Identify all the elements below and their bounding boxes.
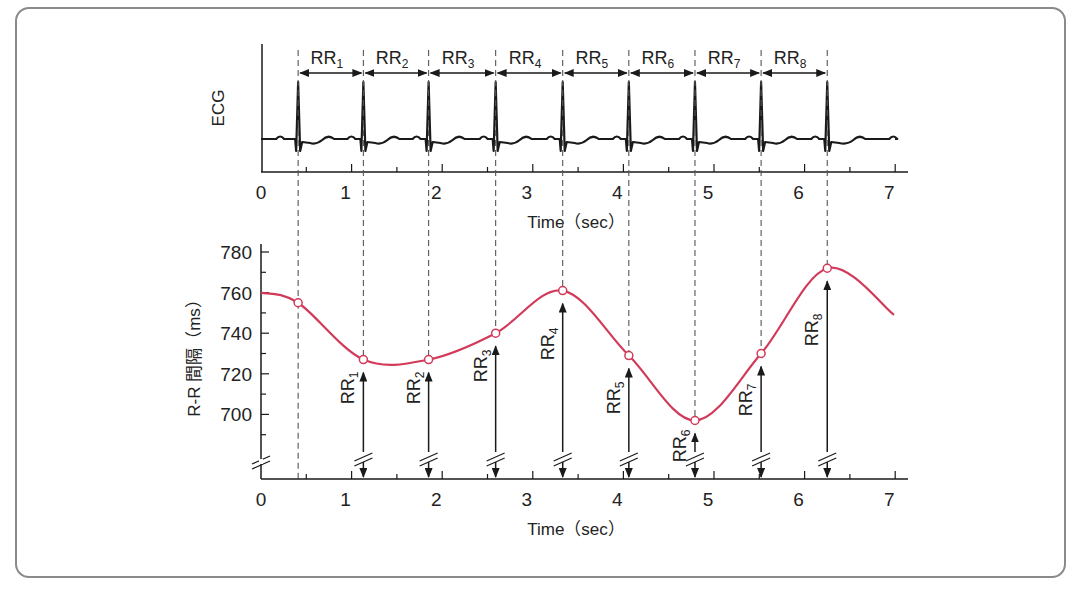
rr-value-label: RR3 [471,349,494,382]
rr-panel: R-R 間隔（ms） 780760740720700 01234567 Time… [185,242,908,539]
y-tick-label: 780 [220,242,252,263]
rr-interval-label: RR4 [509,48,542,71]
y-tick-label: 700 [220,404,252,425]
x-tick-label: 5 [703,489,714,510]
rr-data-point [359,356,367,364]
ecg-y-label: ECG [209,90,228,127]
x-tick-label: 0 [256,489,267,510]
rr-interval-label: RR6 [642,48,675,71]
rr-y-label: R-R 間隔（ms） [185,291,204,417]
x-tick-label: 1 [340,182,351,203]
x-tick-label: 3 [522,489,533,510]
rr-x-ticks: 01234567 [256,471,895,510]
y-tick-label: 720 [220,364,252,385]
rr-value-label: RR5 [604,381,627,414]
x-tick-label: 1 [340,489,351,510]
rr-interval-label: RR8 [774,48,807,71]
rr-x-label: Time（sec） [527,520,625,539]
rr-value-label: RR4 [538,327,561,360]
x-tick-label: 6 [793,182,804,203]
rr-data-point [294,299,302,307]
rr-data-point [757,350,765,358]
rr-interval-label: RR1 [310,48,343,71]
x-tick-label: 0 [256,182,267,203]
rr-value-label: RR1 [338,371,361,404]
ecg-panel: ECG 01234567 Time（sec） RR1RR2RR3RR4RR5RR… [209,44,908,232]
x-tick-label: 2 [431,489,442,510]
ecg-x-label: Time（sec） [527,213,625,232]
rr-value-label: RR7 [736,383,759,416]
x-tick-label: 4 [612,489,623,510]
x-tick-label: 5 [703,182,714,203]
ecg-trace [261,82,897,151]
ecg-rr-figure: ECG 01234567 Time（sec） RR1RR2RR3RR4RR5RR… [0,0,1076,592]
y-tick-label: 760 [220,283,252,304]
rr-data-point [425,356,433,364]
x-tick-label: 7 [884,182,895,203]
rr-interval-label: RR7 [708,48,741,71]
ecg-x-ticks [306,164,895,172]
rr-interval-label: RR2 [376,48,409,71]
rr-interval-label: RR3 [442,48,475,71]
x-tick-label: 3 [522,182,533,203]
rr-data-point [625,352,633,360]
x-tick-label: 6 [793,489,804,510]
rr-data-point [559,287,567,295]
rr-value-label: RR2 [404,371,427,404]
x-tick-label: 7 [884,489,895,510]
rr-data-point [823,264,831,272]
x-tick-label: 2 [431,182,442,203]
rr-data-point [691,416,699,424]
rr-data-point [492,329,500,337]
rr-value-label: RR8 [802,313,825,346]
x-tick-label: 4 [612,182,623,203]
y-tick-label: 740 [220,323,252,344]
ecg-x-tick-labels: 01234567 [256,182,895,203]
rr-interval-label: RR5 [575,48,608,71]
rr-value-label: RR6 [670,429,693,462]
